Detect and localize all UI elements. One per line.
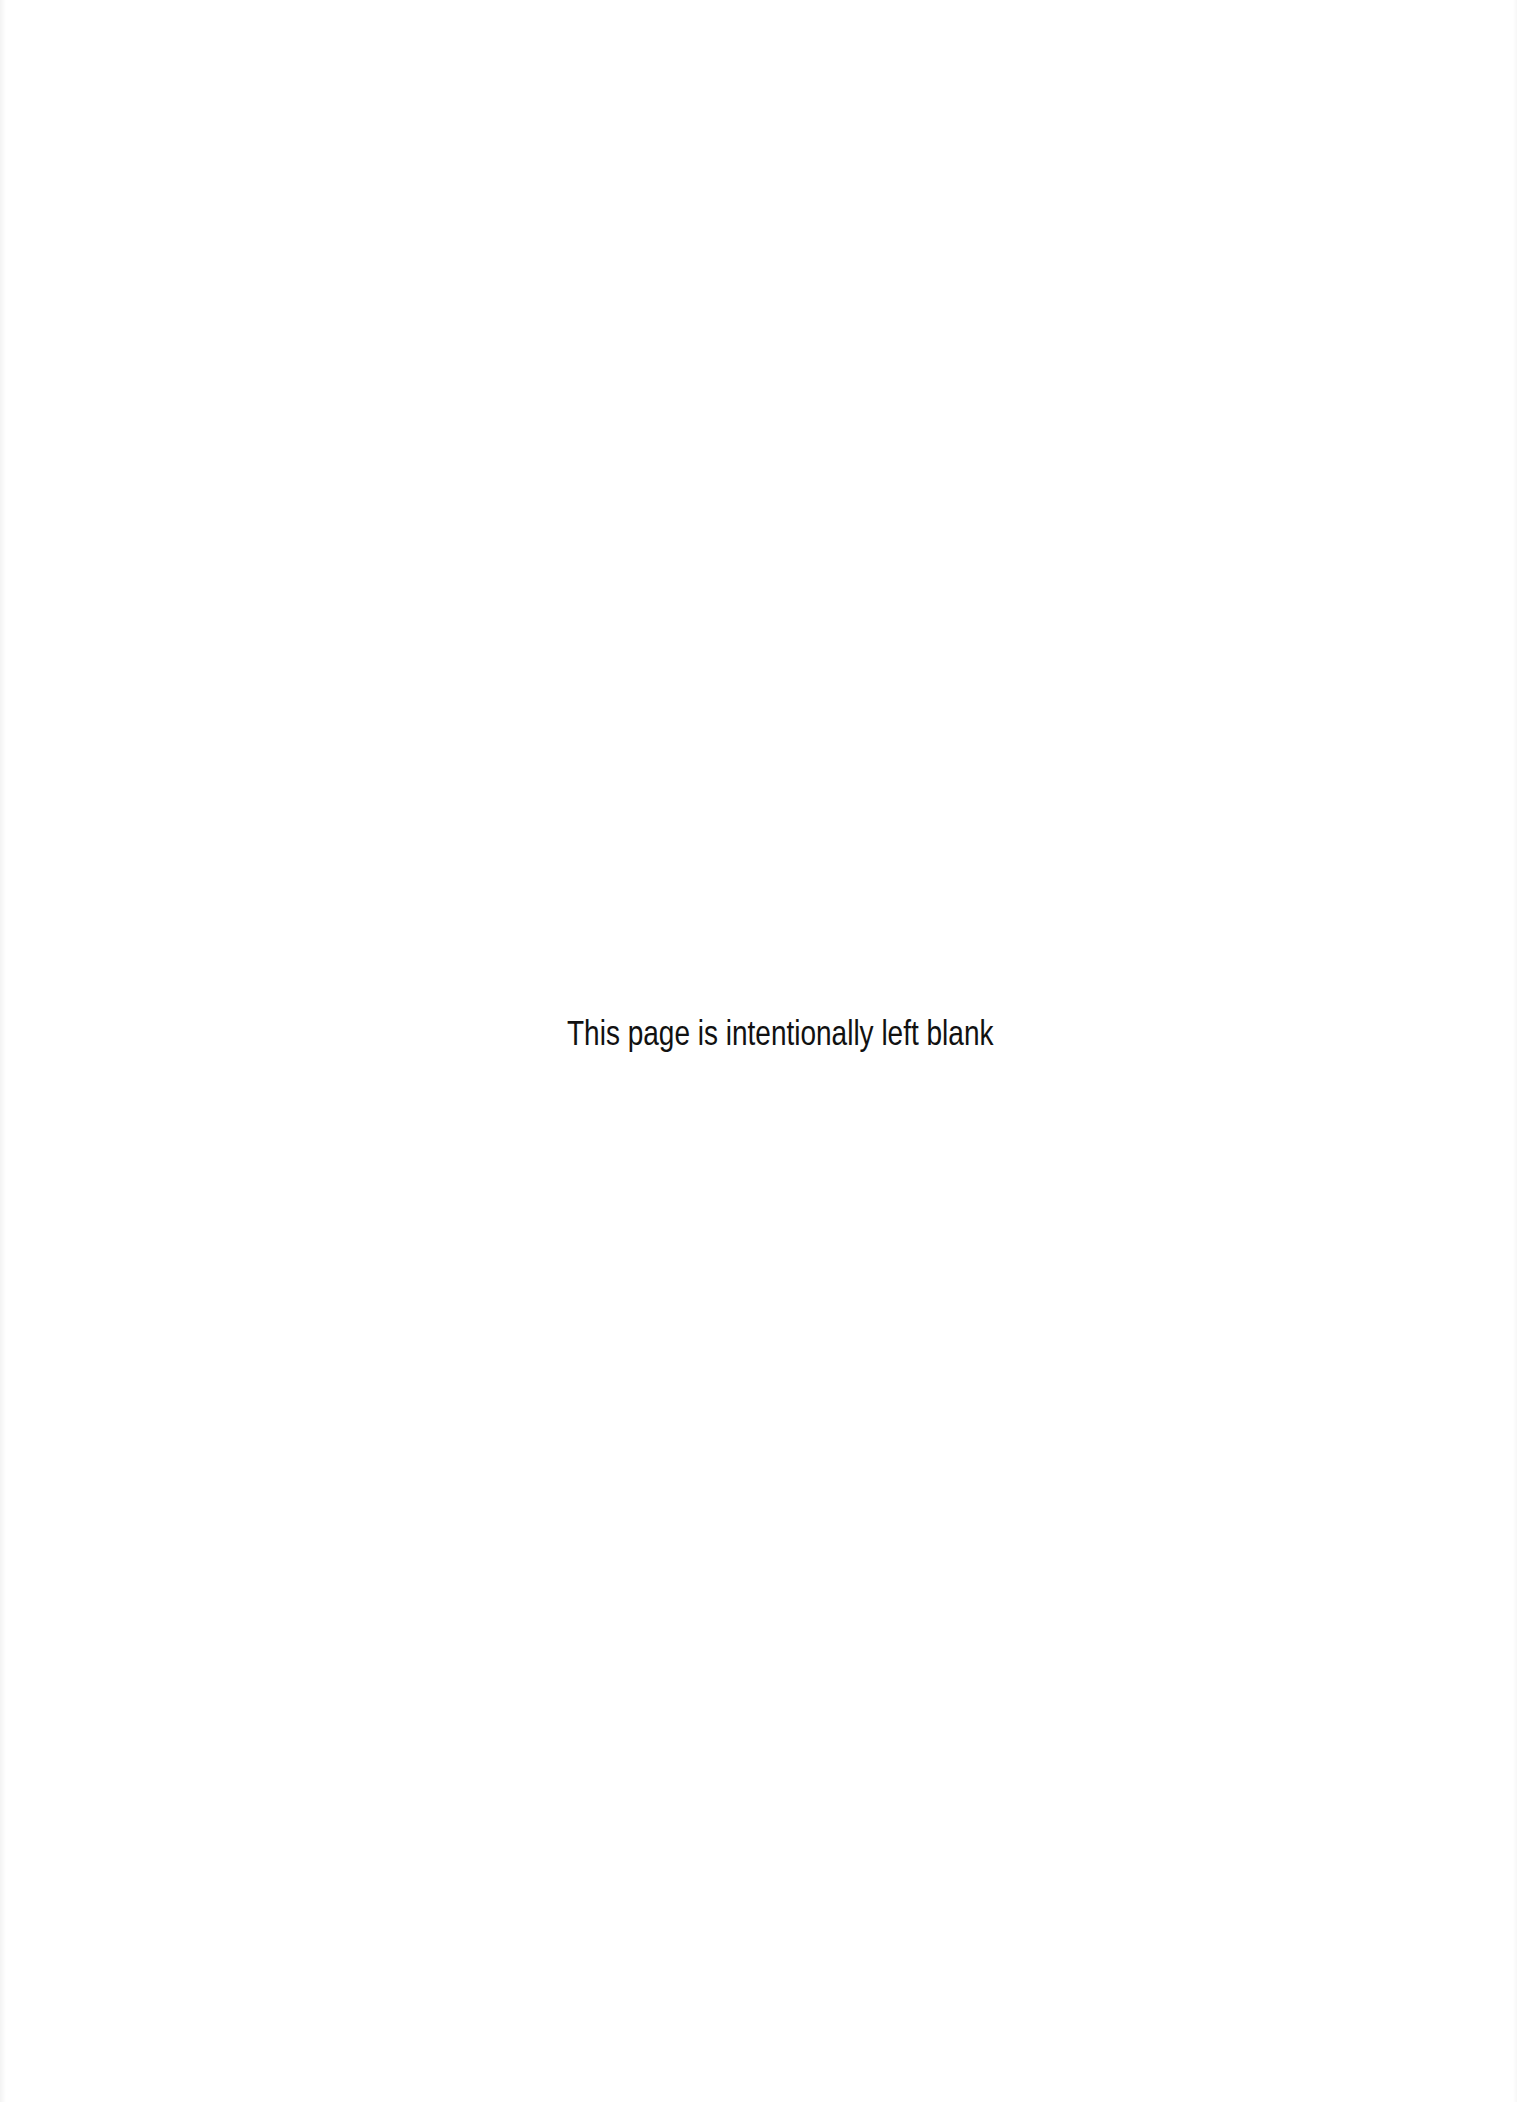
blank-document-page: This page is intentionally left blank — [0, 0, 1517, 2102]
notice-container: This page is intentionally left blank — [567, 1012, 1003, 1056]
scan-edge-right — [1513, 0, 1517, 2102]
scan-edge-left — [0, 0, 6, 2102]
intentionally-blank-notice: This page is intentionally left blank — [567, 1012, 993, 1054]
